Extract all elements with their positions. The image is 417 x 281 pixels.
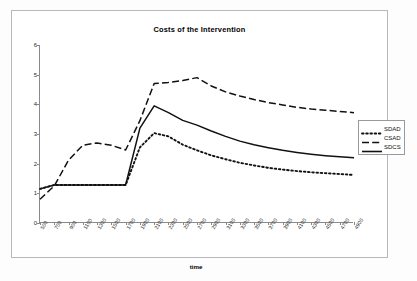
series-line-sdcs bbox=[40, 106, 354, 189]
legend-item-csad: CSAD bbox=[361, 133, 401, 142]
series-line-sdad bbox=[40, 133, 354, 189]
y-axis-tick-mark bbox=[37, 193, 40, 194]
x-axis-label: time bbox=[39, 263, 353, 270]
legend-item-sdcs: SDCS bbox=[361, 142, 401, 151]
chart-title: Costs of the Intervention bbox=[12, 25, 387, 34]
legend-label: CSAD bbox=[384, 135, 401, 141]
chart-legend: SDADCSADSDCS bbox=[358, 120, 405, 155]
y-axis-tick-mark bbox=[37, 164, 40, 165]
series-line-csad bbox=[40, 78, 354, 200]
legend-label: SDCS bbox=[384, 144, 401, 150]
y-axis-tick-mark bbox=[37, 134, 40, 135]
legend-item-sdad: SDAD bbox=[361, 124, 401, 133]
plot-lines bbox=[40, 45, 354, 223]
y-axis-tick-mark bbox=[37, 104, 40, 105]
legend-key-sdad bbox=[361, 124, 383, 133]
legend-key-sdcs bbox=[361, 142, 383, 151]
y-axis-tick-mark bbox=[37, 75, 40, 76]
chart-frame: Costs of the Intervention 01234565007009… bbox=[11, 10, 388, 258]
legend-key-csad bbox=[361, 133, 383, 142]
x-axis-tick-label: 4900 bbox=[353, 217, 364, 230]
chart-screenshot: Costs of the Intervention 01234565007009… bbox=[0, 0, 417, 281]
legend-label: SDAD bbox=[384, 126, 401, 132]
plot-area: 0123456500700900110013001500170019002100… bbox=[39, 45, 353, 223]
y-axis-tick-mark bbox=[37, 45, 40, 46]
